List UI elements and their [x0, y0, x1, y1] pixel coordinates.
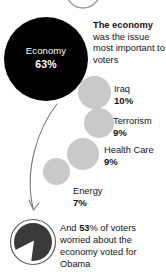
footer-caption: And 53% of voters worried about the econ… — [60, 222, 166, 270]
bubble-economy: Economy 63% — [4, 17, 88, 101]
infographic-root: Economy 63% The economy was the issue mo… — [0, 0, 166, 280]
label-terrorism-value: 9% — [113, 127, 152, 138]
bubble-economy-name: Economy — [26, 45, 66, 56]
bubble-economy-label: Economy 63% — [4, 45, 88, 70]
label-energy: Energy 7% — [73, 186, 102, 208]
label-energy-name: Energy — [73, 186, 102, 196]
label-iraq-value: 10% — [114, 95, 133, 106]
bubble-terrorism — [84, 108, 114, 138]
pie-chart-obama-vote — [9, 218, 57, 266]
bubble-energy — [43, 158, 70, 185]
cropped-circle-outline-icon — [66, 0, 100, 8]
label-health-care-name: Health Care — [104, 145, 154, 155]
label-terrorism: Terrorism 9% — [113, 116, 152, 138]
label-health-care: Health Care 9% — [104, 145, 154, 167]
footer-prefix: And — [60, 223, 79, 233]
headline: The economy was the issue most important… — [93, 20, 166, 66]
label-iraq: Iraq 10% — [114, 84, 133, 106]
label-energy-value: 7% — [73, 197, 102, 208]
headline-lead: The economy — [93, 20, 153, 30]
footer-highlight: 53 — [79, 223, 89, 233]
headline-rest: was the issue most important to voters — [93, 32, 165, 65]
bubble-iraq — [78, 76, 111, 109]
bubble-economy-value: 63% — [4, 58, 88, 70]
bubble-health-care — [67, 138, 99, 170]
label-health-care-value: 9% — [104, 156, 154, 167]
connector-arrow-curve — [30, 104, 57, 208]
label-iraq-name: Iraq — [114, 84, 130, 94]
label-terrorism-name: Terrorism — [113, 116, 152, 126]
connector-arrowhead-icon — [29, 200, 39, 210]
pie-chart-svg — [9, 218, 57, 266]
